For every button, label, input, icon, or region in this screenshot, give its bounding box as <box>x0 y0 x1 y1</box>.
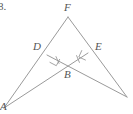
segment-A-E <box>4 53 88 108</box>
vertex-label-A: A <box>0 101 7 112</box>
problem-number: 8. <box>0 1 6 12</box>
vertex-label-E: E <box>95 41 102 52</box>
geometry-diagram <box>0 0 133 114</box>
vertex-label-B: B <box>64 69 71 80</box>
geometry-figure-container: 8. F D E B A <box>0 0 133 114</box>
vertex-label-D: D <box>33 41 41 52</box>
vertex-label-F: F <box>64 2 71 13</box>
